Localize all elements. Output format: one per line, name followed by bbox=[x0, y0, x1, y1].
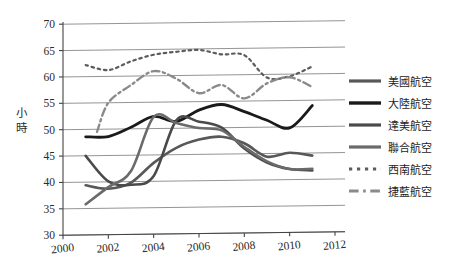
y-tick-label: 65 bbox=[44, 45, 56, 57]
y-tick-labels: 706560555045403530 bbox=[44, 18, 56, 241]
y-tick-label: 30 bbox=[44, 229, 56, 241]
legend-item-1[interactable]: 美國航空 bbox=[348, 70, 452, 92]
legend-label: 西南航空 bbox=[388, 161, 432, 177]
y-tick-label: 45 bbox=[44, 150, 56, 162]
y-axis bbox=[59, 22, 63, 236]
legend-swatch-icon bbox=[348, 185, 382, 197]
y-axis-title-char-1: 小 bbox=[8, 106, 34, 121]
x-tick-label: 2012 bbox=[323, 238, 347, 252]
series-line-4 bbox=[86, 114, 313, 204]
legend-label: 大陸航空 bbox=[388, 95, 432, 111]
legend-swatch-icon bbox=[348, 75, 382, 87]
chart-legend: 美國航空大陸航空達美航空聯合航空西南航空捷藍航空 bbox=[348, 70, 452, 202]
y-tick-label: 70 bbox=[44, 18, 56, 30]
y-tick-label: 35 bbox=[44, 203, 56, 215]
line-chart: 706560555045403530 200020022004200620082… bbox=[0, 0, 454, 278]
legend-item-4[interactable]: 聯合航空 bbox=[348, 136, 452, 158]
x-tick-labels: 2000200220042006200820102012 bbox=[51, 238, 347, 256]
x-tick-label: 2006 bbox=[187, 239, 211, 253]
x-axis-spine bbox=[63, 232, 345, 236]
legend-swatch-icon bbox=[348, 97, 382, 109]
y-tick-label: 50 bbox=[44, 124, 56, 136]
gridline bbox=[63, 205, 345, 209]
x-tick-label: 2008 bbox=[232, 239, 256, 253]
y-axis-title: 小 時 bbox=[8, 106, 34, 136]
gridline bbox=[63, 73, 345, 77]
x-tick-label: 2002 bbox=[96, 240, 120, 254]
y-axis-title-char-2: 時 bbox=[8, 121, 34, 136]
legend-swatch-icon bbox=[348, 141, 382, 153]
y-tick-label: 40 bbox=[44, 176, 56, 188]
series-line-5 bbox=[86, 50, 313, 79]
y-tick-label: 60 bbox=[44, 71, 56, 83]
legend-item-2[interactable]: 大陸航空 bbox=[348, 92, 452, 114]
x-tick-label: 2004 bbox=[141, 240, 165, 254]
x-tick-label: 2010 bbox=[277, 238, 301, 252]
gridline bbox=[63, 21, 345, 25]
legend-label: 美國航空 bbox=[388, 73, 432, 89]
legend-item-3[interactable]: 達美航空 bbox=[348, 114, 452, 136]
legend-swatch-icon bbox=[348, 163, 382, 175]
x-tick-label: 2000 bbox=[51, 241, 75, 255]
legend-item-5[interactable]: 西南航空 bbox=[348, 158, 452, 180]
legend-swatch-icon bbox=[348, 119, 382, 131]
legend-item-6[interactable]: 捷藍航空 bbox=[348, 180, 452, 202]
legend-label: 達美航空 bbox=[388, 117, 432, 133]
gridline bbox=[63, 100, 345, 104]
legend-label: 聯合航空 bbox=[388, 139, 432, 155]
y-tick-label: 55 bbox=[44, 97, 56, 109]
x-axis bbox=[63, 232, 345, 240]
legend-label: 捷藍航空 bbox=[388, 183, 432, 199]
